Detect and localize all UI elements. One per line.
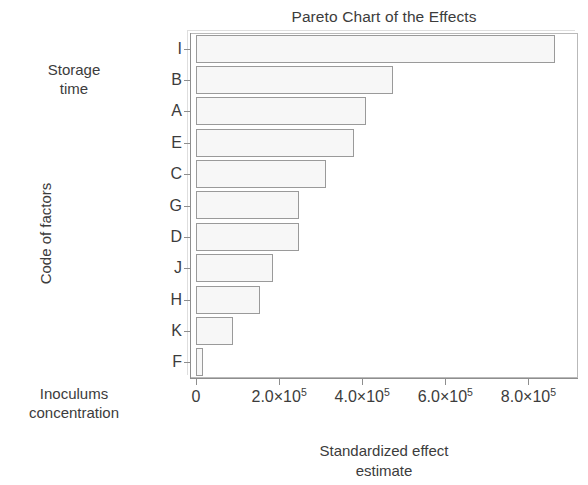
y-axis-tick [184, 362, 190, 363]
y-axis-label-c: C [156, 165, 182, 183]
x-axis-label-2: 4.0×105 [335, 388, 390, 406]
bar-row [190, 284, 578, 315]
y-axis-label-i: I [156, 40, 182, 58]
bar-row [190, 64, 578, 95]
y-axis-tick [184, 49, 190, 50]
bar-row [190, 127, 578, 158]
y-axis-label-b: B [156, 71, 182, 89]
y-axis-tick [184, 206, 190, 207]
bar-k [196, 317, 233, 345]
annotation-inoculums-concentration: Inoculums concentration [4, 384, 144, 422]
x-axis-label-0: 0 [192, 388, 201, 406]
chart-title: Pareto Chart of the Effects [190, 8, 578, 26]
y-axis-tick [184, 331, 190, 332]
y-axis-tick [184, 300, 190, 301]
x-axis-tick [445, 378, 446, 385]
bar-row [190, 315, 578, 346]
bar-b [196, 66, 393, 94]
bar-row [190, 190, 578, 221]
bar-f [196, 348, 203, 376]
bar-c [196, 160, 326, 188]
y-axis-label-d: D [156, 228, 182, 246]
bar-row [190, 96, 578, 127]
bar-h [196, 286, 260, 314]
y-axis-tick [184, 111, 190, 112]
bar-row [190, 33, 578, 64]
x-axis-title-line1: Standardized effect [190, 441, 578, 461]
y-axis-label-g: G [156, 197, 182, 215]
y-axis-tick-labels: IBAECGDJHKF [150, 33, 182, 378]
y-axis-label-j: J [156, 259, 182, 277]
bar-g [196, 191, 299, 219]
bar-d [196, 223, 299, 251]
y-axis-title: Code of factors [37, 159, 54, 309]
y-axis-tick [184, 237, 190, 238]
bar-row [190, 158, 578, 189]
y-axis-label-e: E [156, 134, 182, 152]
annotation-storage-time-line2: time [4, 79, 144, 98]
annotation-inoculums-line2: concentration [4, 403, 144, 422]
x-axis-ticks: 02.0×1054.0×1056.0×1058.0×105 [190, 378, 578, 418]
y-axis-line [190, 33, 191, 378]
annotation-storage-time: Storage time [4, 60, 144, 98]
pareto-chart-figure: Pareto Chart of the Effects IBAECGDJHKF … [0, 0, 588, 485]
x-axis-tick [528, 378, 529, 385]
y-axis-label-a: A [156, 102, 182, 120]
bar-row [190, 221, 578, 252]
y-axis-label-h: H [156, 291, 182, 309]
x-axis-label-4: 8.0×105 [501, 388, 556, 406]
bar-row [190, 253, 578, 284]
y-axis-tick [184, 143, 190, 144]
bars-layer [190, 33, 578, 378]
y-axis-tick [184, 174, 190, 175]
bar-j [196, 254, 273, 282]
x-axis-title-line2: estimate [190, 461, 578, 481]
annotation-storage-time-line1: Storage [4, 60, 144, 79]
y-axis-tick [184, 80, 190, 81]
x-axis-tick [196, 378, 197, 385]
x-axis-tick [279, 378, 280, 385]
y-axis-tick [184, 268, 190, 269]
bar-a [196, 97, 366, 125]
y-axis-label-f: F [156, 353, 182, 371]
x-axis-tick [362, 378, 363, 385]
x-axis-title: Standardized effect estimate [190, 441, 578, 480]
x-axis-label-1: 2.0×105 [251, 388, 306, 406]
bar-row [190, 347, 578, 378]
bar-i [196, 35, 555, 63]
y-axis-label-k: K [156, 322, 182, 340]
bar-e [196, 129, 354, 157]
annotation-inoculums-line1: Inoculums [4, 384, 144, 403]
x-axis-label-3: 6.0×105 [418, 388, 473, 406]
